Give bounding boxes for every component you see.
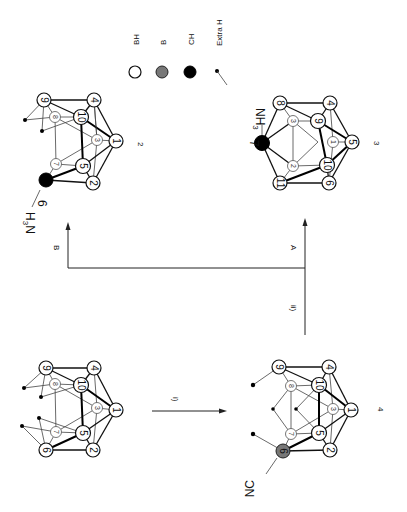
ch-atom <box>39 173 53 187</box>
atom-label: 2 <box>290 164 297 168</box>
arrow-ii-label: ii) <box>289 305 298 312</box>
arrow-a-label: A <box>289 245 298 251</box>
atom-label: 6 <box>278 448 289 454</box>
compound-number: 3 <box>372 141 381 146</box>
extra-h-dot <box>39 395 43 399</box>
atom-label: 1 <box>111 138 122 144</box>
atom-label: 8 <box>52 382 59 386</box>
atom-label: 7 <box>53 162 60 166</box>
atom-label: 9 <box>313 118 324 124</box>
atom-label: 11 <box>275 178 286 189</box>
atom-label: 3 <box>94 406 101 410</box>
structure-1: 8 7 3 9 4 10 1 5 2 6 <box>20 361 123 457</box>
atom-label: 6 <box>324 180 335 186</box>
atom-label: 5 <box>78 163 89 169</box>
atom-label: 4 <box>89 97 100 103</box>
bh-legend-icon <box>129 66 141 78</box>
atom-label: 2 <box>88 447 99 453</box>
atom-label: 1 <box>330 140 337 144</box>
structure-3: 3 2 1 8 4 9 5 10 11 6 7 NH3 3 <box>247 96 381 190</box>
compound-number: 4 <box>376 407 385 412</box>
extra-h-dot <box>251 383 255 387</box>
atom-label: 3 <box>290 119 297 123</box>
atom-label: 2 <box>88 180 99 186</box>
extra-h-dot <box>37 416 41 420</box>
legend-label-ch: CH <box>187 33 196 45</box>
extra-h-dot <box>40 129 44 133</box>
atom-label: 8 <box>288 384 295 388</box>
atom-label: 1 <box>346 407 357 413</box>
atom-label: 2 <box>325 447 336 453</box>
extra-h-dot <box>294 407 298 411</box>
reaction-scheme-diagram: BH B CH Extra H <box>0 0 407 512</box>
atom-label: 8 <box>52 115 59 119</box>
legend-label-extra-h: Extra H <box>215 19 224 46</box>
atom-label: 10 <box>322 159 333 171</box>
compound-number: 2 <box>136 142 145 147</box>
legend: BH B CH Extra H <box>129 19 227 85</box>
substituent-h3n: H3N <box>21 212 37 234</box>
extra-h-dot <box>251 432 255 436</box>
legend-label-b: B <box>159 40 168 45</box>
extra-h-dot <box>271 407 275 411</box>
atom-label: 7 <box>288 432 295 436</box>
structure-4: 8 7 3 9 4 10 1 5 2 6 NC 4 <box>243 360 385 497</box>
atom-label: 7 <box>53 430 60 434</box>
ch-atom-number: 6 <box>35 200 49 207</box>
atom-label: 8 <box>275 100 286 106</box>
atom-label: 3 <box>94 138 101 142</box>
atom-label: 10 <box>314 379 325 391</box>
extra-h-dot <box>22 386 26 390</box>
ch-atom-number: 7 <box>247 140 261 147</box>
atom-label: 9 <box>274 364 285 370</box>
atom-label: 4 <box>89 365 100 371</box>
atom-label: 3 <box>330 407 337 411</box>
arrow-b-label: B <box>52 245 61 250</box>
atom-label: 4 <box>325 100 336 106</box>
atom-label: 4 <box>324 364 335 370</box>
atom-label: 6 <box>41 447 52 453</box>
atom-label: 9 <box>41 365 52 371</box>
atom-label: 5 <box>78 430 89 436</box>
substituent-nh3: NH3 <box>251 108 267 130</box>
substituent-nc: NC <box>243 480 257 498</box>
extra-h-dot <box>23 118 27 122</box>
atom-label: 5 <box>314 430 325 436</box>
atom-label: 5 <box>347 139 358 145</box>
atom-label: 10 <box>76 111 87 123</box>
structure-2: 8 7 3 9 4 10 1 5 2 6 H3N 2 <box>21 93 145 234</box>
reaction-arrows: B A ii) i) <box>52 218 308 414</box>
legend-label-bh: BH <box>132 34 141 45</box>
ch-legend-icon <box>184 66 196 78</box>
atom-label: 1 <box>111 407 122 413</box>
atom-label: 9 <box>39 97 50 103</box>
atom-label: 10 <box>76 379 87 391</box>
b-legend-icon <box>156 66 168 78</box>
extra-h-dot <box>20 424 24 428</box>
arrow-i-label: i) <box>171 397 180 402</box>
